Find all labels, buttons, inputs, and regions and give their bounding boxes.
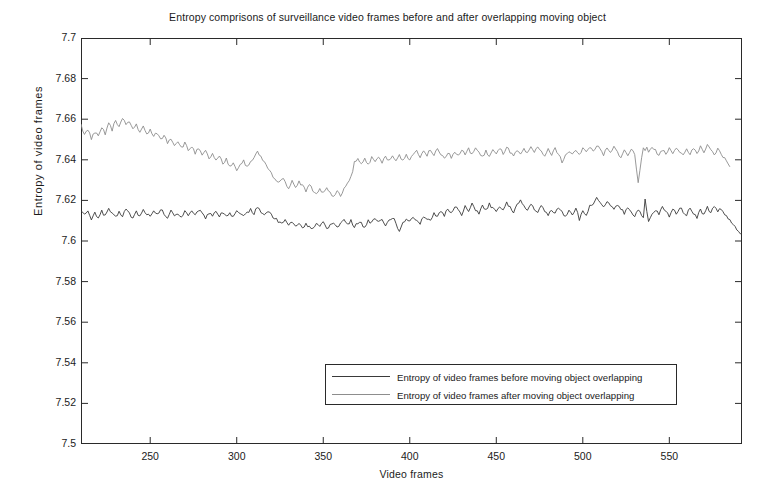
y-tick-label: 7.52 [36, 396, 76, 408]
legend-swatch-after [332, 394, 390, 396]
legend-label-before: Entropy of video frames before moving ob… [397, 372, 642, 383]
legend-label-after: Entropy of video frames after moving obj… [397, 390, 634, 401]
y-tick-label: 7.64 [36, 153, 76, 165]
legend-item-after: Entropy of video frames after moving obj… [332, 387, 634, 403]
y-tick-label: 7.56 [36, 315, 76, 327]
y-tick-label: 7.66 [36, 112, 76, 124]
legend-item-before: Entropy of video frames before moving ob… [332, 369, 642, 385]
x-tick-label: 500 [558, 450, 608, 462]
y-tick-label: 7.6 [36, 234, 76, 246]
x-tick-label: 350 [298, 450, 348, 462]
x-tick-label: 550 [644, 450, 694, 462]
y-tick-label: 7.7 [36, 31, 76, 43]
entropy-comparison-figure: Entropy comprisons of surveillance video… [0, 0, 775, 500]
y-tick-label: 7.58 [36, 275, 76, 287]
legend-swatch-before [332, 376, 390, 378]
y-tick-label: 7.54 [36, 356, 76, 368]
x-tick-label: 300 [212, 450, 262, 462]
y-tick-label: 7.68 [36, 72, 76, 84]
x-axis-label: Video frames [81, 468, 742, 480]
x-tick-label: 450 [471, 450, 521, 462]
y-tick-label: 7.5 [36, 437, 76, 449]
x-tick-label: 250 [125, 450, 175, 462]
x-tick-label: 400 [385, 450, 435, 462]
legend: Entropy of video frames before moving ob… [325, 364, 677, 405]
y-tick-label: 7.62 [36, 193, 76, 205]
chart-title: Entropy comprisons of surveillance video… [0, 11, 775, 23]
